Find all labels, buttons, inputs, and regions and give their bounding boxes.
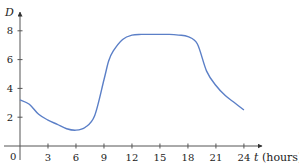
x-tick-label: 9 [101,152,107,163]
x-axis-label-unit: (hours) [262,151,299,164]
x-tick-label: 6 [73,152,79,163]
data-line-series [20,34,244,130]
origin-label: 0 [10,151,16,162]
x-axis-label-var: t [254,151,259,164]
y-axis-label: D [4,6,14,19]
y-tick-label: 2 [7,112,13,123]
x-tick-label: 21 [210,152,223,163]
y-tick-label: 6 [7,54,13,65]
x-tick-label: 3 [45,152,51,163]
chart: 3691215182124 2468 0 D t (hours) [0,0,299,167]
x-tick-label: 24 [238,152,251,163]
x-tick-label: 18 [182,152,195,163]
y-tick-label: 8 [7,25,13,36]
x-tick-label: 15 [154,152,167,163]
x-tick-label: 12 [126,152,139,163]
y-tick-label: 4 [7,83,13,94]
